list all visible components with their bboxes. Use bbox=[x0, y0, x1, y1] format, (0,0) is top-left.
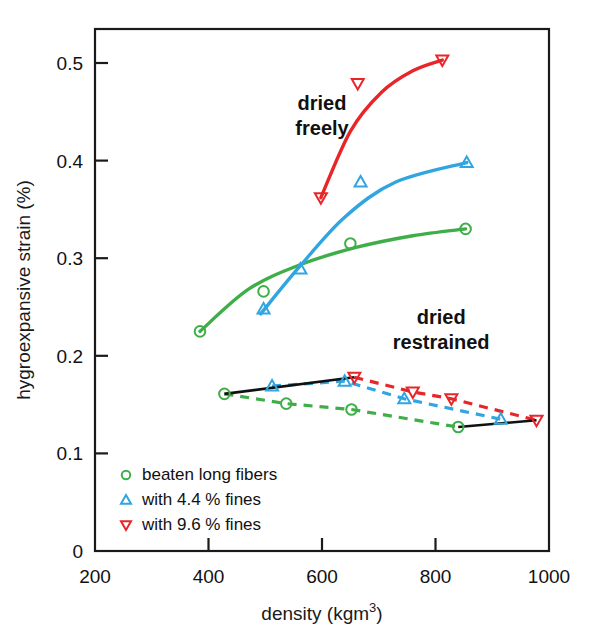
annotation-line-1: dried bbox=[417, 306, 466, 328]
annotation-line-1: dried bbox=[298, 92, 347, 114]
dashed-line-restrained-with-9-6-fines bbox=[354, 377, 536, 420]
y-tick-label-0: 0 bbox=[72, 541, 83, 562]
curve-dried-freely-with-4-4-fines bbox=[261, 163, 467, 314]
legend-label-with-9-6-fines: with 9.6 % fines bbox=[141, 515, 261, 534]
x-axis-title-tail: ) bbox=[376, 603, 382, 624]
x-axis-ticks: 2004006008001000 bbox=[79, 538, 570, 587]
x-tick-label-600: 600 bbox=[306, 566, 338, 587]
legend-triangle-up-icon bbox=[121, 495, 131, 504]
x-axis-title-superscript: 3 bbox=[369, 600, 376, 615]
legend-item-with-4-4-fines: with 4.4 % fines bbox=[121, 490, 261, 509]
annotations-layer: driedfreelydriedrestrained bbox=[295, 92, 489, 353]
legend-circle-icon bbox=[122, 471, 130, 479]
annotation-line-2: restrained bbox=[393, 331, 490, 353]
y-tick-label-0.4: 0.4 bbox=[57, 151, 84, 172]
legend-item-beaten-long-fibers: beaten long fibers bbox=[122, 465, 277, 484]
y-tick-label-0.2: 0.2 bbox=[57, 346, 83, 367]
marker-freely-with-9-6-fines-1 bbox=[352, 79, 364, 90]
annotation-line-2: freely bbox=[295, 117, 349, 139]
legend: beaten long fiberswith 4.4 % fineswith 9… bbox=[121, 465, 277, 534]
y-axis-ticks: 00.10.20.30.40.5 bbox=[57, 53, 108, 562]
y-axis-title: hygroexpansive strain (%) bbox=[13, 180, 34, 400]
x-axis-title: density (kgm3) bbox=[261, 600, 382, 624]
x-axis-title-base: density (kgm bbox=[261, 603, 369, 624]
y-tick-label-0.1: 0.1 bbox=[57, 443, 83, 464]
dashed-line-restrained-beaten-long-fibers bbox=[224, 394, 458, 427]
annotation-dried-freely: driedfreely bbox=[295, 92, 349, 139]
x-tick-label-800: 800 bbox=[420, 566, 452, 587]
x-tick-label-200: 200 bbox=[79, 566, 111, 587]
legend-label-with-4-4-fines: with 4.4 % fines bbox=[141, 490, 261, 509]
marker-freely-with-4-4-fines-2 bbox=[355, 176, 367, 187]
y-tick-label-0.3: 0.3 bbox=[57, 248, 83, 269]
y-tick-label-0.5: 0.5 bbox=[57, 53, 83, 74]
x-tick-label-1000: 1000 bbox=[528, 566, 570, 587]
legend-item-with-9-6-fines: with 9.6 % fines bbox=[121, 515, 261, 534]
x-tick-label-400: 400 bbox=[193, 566, 225, 587]
chart-figure: 00.10.20.30.40.5 2004006008001000 hygroe… bbox=[0, 0, 592, 639]
restrained-connectors-layer bbox=[224, 377, 536, 427]
hygroexpansive-strain-scatter-plot: 00.10.20.30.40.5 2004006008001000 hygroe… bbox=[0, 0, 592, 639]
connector-left-envelope bbox=[224, 377, 354, 394]
marker-freely-beaten-long-fibers-1 bbox=[258, 286, 269, 297]
annotation-dried-restrained: driedrestrained bbox=[393, 306, 490, 353]
legend-triangle-down-icon bbox=[121, 521, 131, 530]
legend-label-beaten-long-fibers: beaten long fibers bbox=[142, 465, 277, 484]
